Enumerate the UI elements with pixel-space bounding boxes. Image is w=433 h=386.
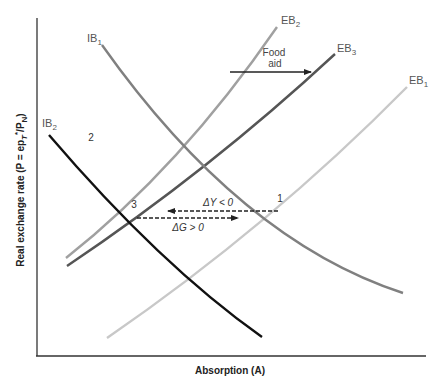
y-axis-title: Real exchange rate (P = epT*/PN) <box>13 113 29 266</box>
curve-ib2 <box>49 135 262 337</box>
curve-eb3 <box>67 54 335 266</box>
delta-g-label: ΔG > 0 <box>171 222 204 233</box>
point-2-label: 2 <box>88 132 94 143</box>
ib1-label: IB1 <box>87 32 102 47</box>
delta-y-label: ΔY < 0 <box>202 197 234 208</box>
eb1-label: EB1 <box>409 74 429 89</box>
diagram-canvas: Food aid ΔY < 0 ΔG > 0 2 3 1 IB1 IB2 EB2… <box>0 0 433 386</box>
food-aid-label-line1: Food <box>263 47 286 58</box>
eb2-label: EB2 <box>281 14 301 29</box>
eb3-label: EB3 <box>337 42 357 57</box>
food-aid-label-line2: aid <box>268 58 281 69</box>
x-axis-title: Absorption (A) <box>195 365 265 376</box>
point-1-label: 1 <box>277 193 283 204</box>
ib2-label: IB2 <box>42 117 57 132</box>
curve-ib1 <box>102 45 403 293</box>
point-3-label: 3 <box>131 199 137 210</box>
